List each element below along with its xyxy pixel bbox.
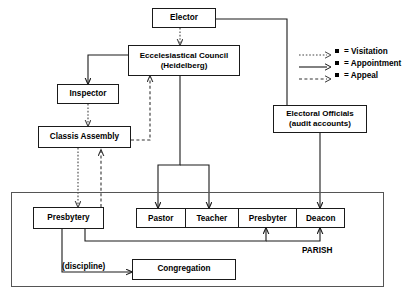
node-elector-label: Elector: [170, 13, 198, 23]
diagram-canvas: Elector Eccelesiastical Council (Heidelb…: [0, 0, 406, 300]
legend-bullet-icon: [335, 61, 339, 65]
node-teacher[interactable]: Teacher: [186, 209, 239, 227]
node-electoral-officials[interactable]: Electoral Officials (audit accounts): [273, 105, 367, 133]
legend-sample-dotted-icon: [299, 46, 335, 56]
node-presbyter[interactable]: Presbyter: [239, 209, 297, 227]
legend-sample-dashed-icon: [299, 70, 335, 80]
legend-label-visitation: = Visitation: [344, 47, 388, 56]
node-congregation-label: Congregation: [157, 264, 210, 274]
node-congregation[interactable]: Congregation: [132, 259, 236, 280]
node-teacher-label: Teacher: [196, 214, 227, 223]
node-inspector[interactable]: Inspector: [57, 84, 119, 104]
node-pastor-label: Pastor: [148, 214, 173, 223]
node-deacon[interactable]: Deacon: [297, 209, 344, 227]
node-classis-assembly[interactable]: Classis Assembly: [38, 126, 131, 148]
node-ecclesiastical-council[interactable]: Eccelesiastical Council (Heidelberg): [128, 45, 240, 76]
discipline-label: (discipline): [62, 262, 105, 271]
parish-title-label: PARISH: [302, 246, 332, 255]
edge-council-to-inspector: [88, 55, 128, 84]
legend: = Visitation = Appointment = Appeal: [299, 45, 401, 81]
node-officials-label-line2: (audit accounts): [289, 119, 351, 129]
edge-council-to-pastor-teacher: [158, 76, 180, 208]
legend-item-visitation: = Visitation: [299, 45, 401, 57]
legend-bullet-icon: [335, 49, 339, 53]
legend-item-appointment: = Appointment: [299, 57, 401, 69]
legend-label-appeal: = Appeal: [344, 71, 378, 80]
legend-sample-solid-icon: [299, 58, 335, 68]
legend-bullet-icon: [335, 73, 339, 77]
node-elector[interactable]: Elector: [152, 8, 216, 28]
node-classis-label: Classis Assembly: [50, 132, 119, 142]
node-officials-label-line1: Electoral Officials: [286, 109, 354, 119]
node-presbyter-label: Presbyter: [249, 214, 287, 223]
node-deacon-label: Deacon: [306, 214, 336, 223]
legend-item-appeal: = Appeal: [299, 69, 401, 81]
node-council-label-line1: Eccelesiastical Council: [140, 51, 229, 61]
node-presbytery[interactable]: Presbytery: [33, 207, 104, 229]
node-inspector-label: Inspector: [70, 89, 107, 99]
node-pastor[interactable]: Pastor: [137, 209, 186, 227]
edge-classis-to-council-appeal: [131, 76, 150, 140]
legend-label-appointment: = Appointment: [344, 59, 401, 68]
parish-roles-strip: Pastor Teacher Presbyter Deacon: [136, 208, 345, 228]
node-presbytery-label: Presbytery: [47, 213, 89, 223]
node-council-label-line2: (Heidelberg): [161, 61, 208, 71]
